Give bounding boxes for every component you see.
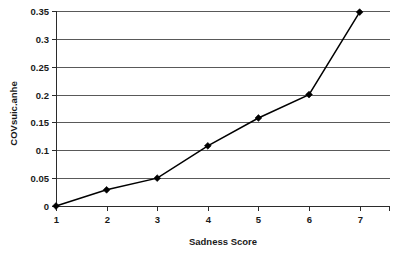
gridlines [56, 12, 390, 207]
x-axis-title: Sadness Score [189, 236, 257, 247]
x-tick-label-5: 6 [307, 214, 312, 225]
data-point-5 [255, 115, 262, 122]
y-tick-label-5: 0.25 [31, 62, 50, 73]
data-point-7 [356, 9, 363, 16]
x-tick-label-4: 5 [256, 214, 262, 225]
x-tick-label-2: 3 [155, 214, 160, 225]
x-tick-label-6: 7 [358, 214, 363, 225]
x-tick-label-3: 4 [206, 214, 212, 225]
data-point-2 [103, 186, 110, 193]
chart-canvas: 00.050.10.150.20.250.30.351234567Sadness… [0, 0, 394, 254]
y-axis-title: COVsuic.anhe [8, 81, 19, 145]
x-axis: 1234567 [54, 206, 390, 225]
y-tick-label-2: 0.1 [36, 145, 50, 156]
data-point-1 [53, 203, 60, 210]
data-series [53, 9, 363, 210]
line-chart: 00.050.10.150.20.250.30.351234567Sadness… [0, 0, 394, 254]
data-point-6 [306, 91, 313, 98]
y-tick-label-6: 0.3 [36, 34, 49, 45]
x-tick-label-0: 1 [54, 214, 60, 225]
y-tick-label-7: 0.35 [31, 6, 50, 17]
x-tick-label-1: 2 [105, 214, 110, 225]
y-tick-label-1: 0.05 [31, 173, 50, 184]
y-tick-label-3: 0.15 [31, 117, 50, 128]
y-axis: 00.050.10.150.20.250.30.35 [31, 6, 57, 212]
series-line [56, 12, 360, 206]
y-tick-label-0: 0 [44, 201, 49, 212]
y-tick-label-4: 0.2 [36, 90, 49, 101]
